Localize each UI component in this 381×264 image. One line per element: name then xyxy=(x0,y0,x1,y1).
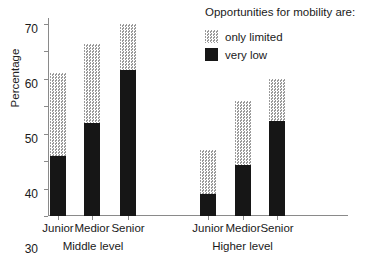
legend-label: very low xyxy=(225,49,267,61)
bar-segment-only-limited xyxy=(269,79,285,122)
bar-segment-only-limited xyxy=(50,73,66,156)
bar-segment-very-low xyxy=(200,194,216,216)
x-tick-label: Medior xyxy=(225,222,260,234)
x-group-label: Middle level xyxy=(63,240,124,252)
x-tick-mark xyxy=(208,216,209,220)
y-tick-mark: 10 xyxy=(44,189,48,190)
bar xyxy=(120,24,136,217)
legend-title: Opportunities for mobility are: xyxy=(205,6,381,18)
bar xyxy=(50,73,66,216)
bar-segment-only-limited xyxy=(84,44,100,122)
bar-segment-very-low xyxy=(50,156,66,217)
x-tick-label: Senior xyxy=(260,222,293,234)
bar xyxy=(269,79,285,217)
y-axis-title: Percentage xyxy=(9,30,21,126)
x-tick-label: Junior xyxy=(192,222,223,234)
x-tick-mark xyxy=(277,216,278,220)
bar-segment-very-low xyxy=(269,121,285,216)
bar-segment-only-limited xyxy=(120,24,136,71)
bar-segment-only-limited xyxy=(235,101,251,166)
bar xyxy=(84,44,100,216)
y-tick-mark: 50 xyxy=(44,79,48,80)
y-tick-mark: 30 xyxy=(44,134,48,135)
y-tick-label: 40 xyxy=(25,187,38,201)
y-tick-mark: 20 xyxy=(44,161,48,162)
x-tick-label: Senior xyxy=(111,222,144,234)
legend-items: only limitedvery low xyxy=(205,30,381,61)
y-tick-label: 60 xyxy=(25,77,38,91)
bar-segment-very-low xyxy=(235,165,251,216)
y-tick-label: 70 xyxy=(25,22,38,36)
y-tick-mark: 70 xyxy=(44,24,48,25)
legend-swatch-limited xyxy=(205,30,218,43)
y-tick-mark: 60 xyxy=(44,51,48,52)
x-tick-label: Junior xyxy=(42,222,73,234)
bar xyxy=(235,101,251,217)
x-tick-mark xyxy=(92,216,93,220)
x-group-label: Higher level xyxy=(212,240,273,252)
bar-chart: Percentage 010203040506070 JuniorMediorS… xyxy=(0,0,381,264)
bar xyxy=(200,150,216,216)
legend-item: only limited xyxy=(205,30,381,43)
bar-segment-very-low xyxy=(84,123,100,217)
y-axis-line xyxy=(48,18,49,216)
x-tick-mark xyxy=(128,216,129,220)
legend: Opportunities for mobility are: only lim… xyxy=(205,6,381,66)
legend-item: very low xyxy=(205,48,381,61)
y-tick-mark: 40 xyxy=(44,106,48,107)
x-tick-label: Medior xyxy=(74,222,109,234)
legend-swatch-low xyxy=(205,48,218,61)
y-tick-mark: 0 xyxy=(44,216,48,217)
x-tick-mark xyxy=(243,216,244,220)
bar-segment-only-limited xyxy=(200,150,216,194)
y-tick-label: 50 xyxy=(25,132,38,146)
y-tick-label: 30 xyxy=(25,242,38,256)
x-tick-mark xyxy=(58,216,59,220)
bar-segment-very-low xyxy=(120,70,136,216)
legend-label: only limited xyxy=(225,31,283,43)
